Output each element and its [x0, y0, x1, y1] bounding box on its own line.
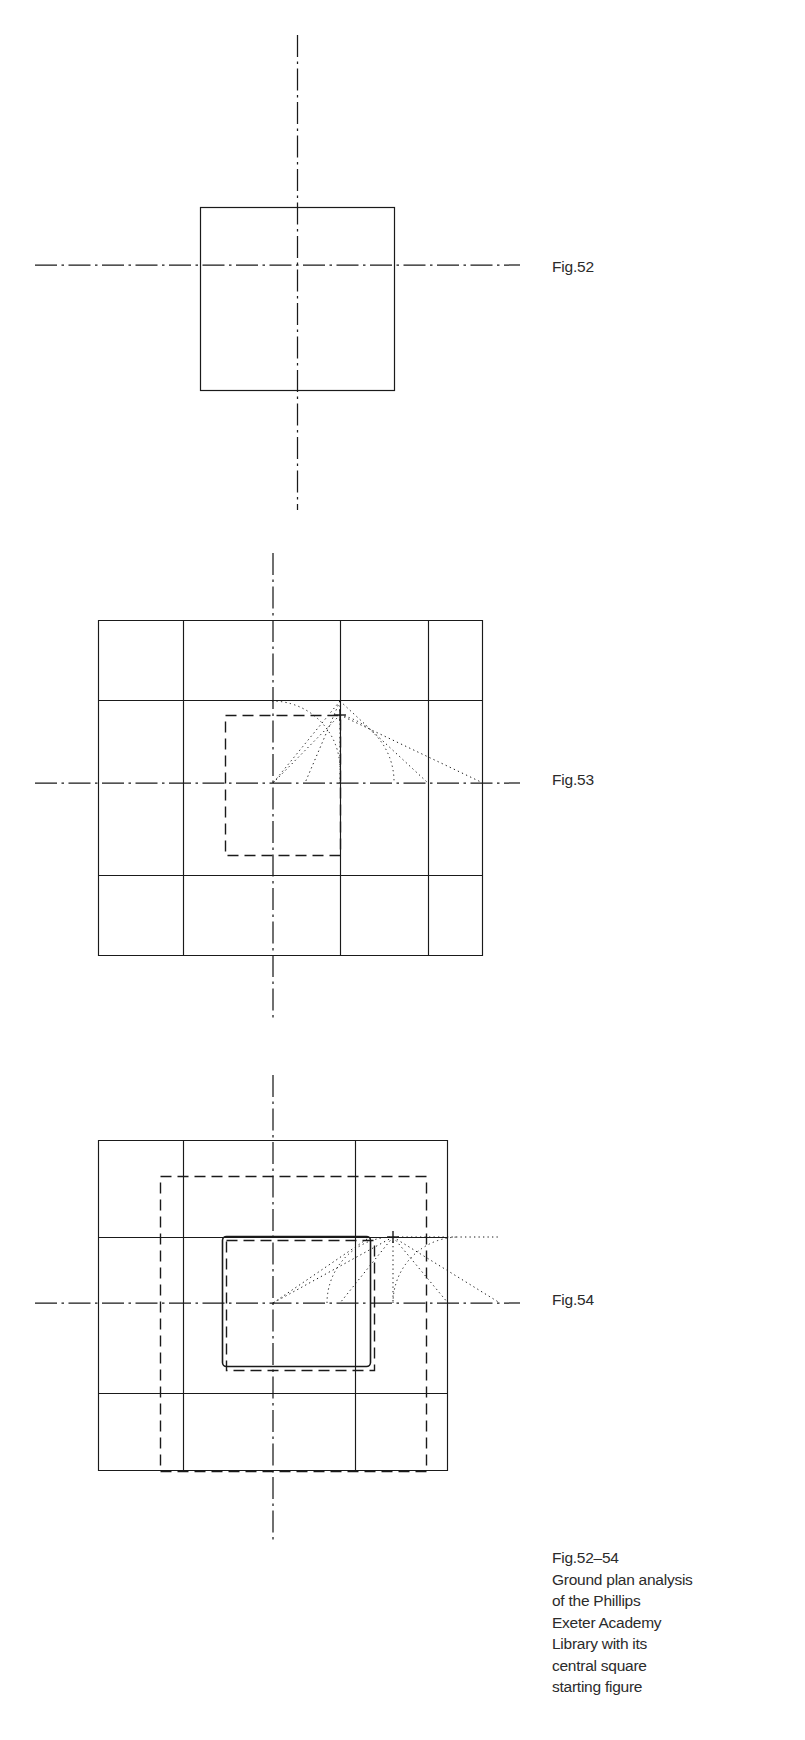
caption-line-7: starting figure — [552, 1676, 787, 1698]
dashed-inner-square — [227, 1241, 375, 1371]
figure-52-drawing — [0, 0, 540, 545]
construction-ray-5 — [273, 715, 340, 783]
construction-ray-6 — [340, 715, 483, 783]
caption-line-2: Ground plan analysis — [552, 1569, 787, 1591]
construction-ray-2 — [340, 1237, 393, 1303]
caption-line-1: Fig.52–54 — [552, 1547, 787, 1569]
figure-54-svg — [0, 1060, 540, 1580]
figure-caption: Fig.52–54 Ground plan analysis of the Ph… — [552, 1547, 787, 1698]
construction-rays — [273, 1237, 500, 1303]
solid-inner-square — [223, 1237, 371, 1367]
construction-ray-4 — [340, 701, 428, 783]
construction-arc — [272, 701, 340, 769]
construction-rays — [273, 701, 483, 783]
construction-ray-4 — [393, 1237, 448, 1303]
figure-53-label: Fig.53 — [552, 770, 782, 790]
figure-plate: Fig.52 Fig.53 Fig.54 Fig.52–54 Ground pl… — [0, 0, 805, 1740]
construction-nodes — [334, 709, 346, 721]
construction-arc-outer — [340, 715, 394, 783]
caption-line-3: of the Phillips — [552, 1590, 787, 1612]
caption-line-5: Library with its — [552, 1633, 787, 1655]
figure-53-svg — [0, 545, 540, 1090]
construction-nodes — [387, 1231, 399, 1243]
figure-52-label: Fig.52 — [552, 257, 782, 277]
construction-arc — [327, 1237, 393, 1303]
figure-53-drawing — [0, 545, 540, 1090]
figure-52-svg — [0, 0, 540, 545]
figure-54-label: Fig.54 — [552, 1290, 782, 1310]
figure-54-drawing — [0, 1060, 540, 1580]
construction-ray-5 — [393, 1237, 500, 1303]
dashed-outer-envelope — [161, 1177, 427, 1472]
nine-square-grid — [98, 620, 483, 956]
caption-line-6: central square — [552, 1655, 787, 1677]
construction-ray-1 — [273, 701, 340, 783]
dashed-inner-square — [226, 716, 341, 856]
caption-line-4: Exeter Academy — [552, 1612, 787, 1634]
